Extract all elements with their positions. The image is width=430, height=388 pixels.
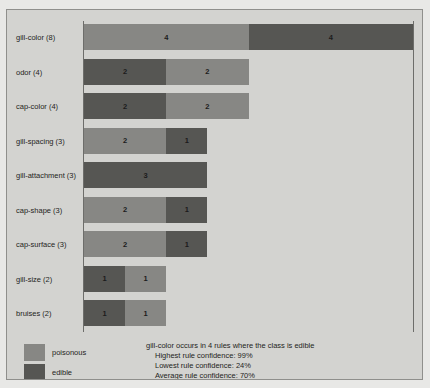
- bar-segment-poisonous[interactable]: 2: [166, 93, 248, 119]
- rule-attribute-chart-panel: gill-color (8)odor (4)cap-color (4)gill-…: [6, 9, 423, 380]
- category-label: cap-shape (3): [16, 206, 82, 215]
- annotation-average-confidence: Average rule confidence: 70%: [155, 371, 411, 380]
- bar-row[interactable]: 44: [84, 24, 413, 50]
- bar-segment-edible[interactable]: 1: [166, 197, 207, 223]
- bar-segment-poisonous[interactable]: 2: [166, 59, 248, 85]
- bar-row[interactable]: 11: [84, 300, 166, 326]
- bar-row[interactable]: 21: [84, 128, 207, 154]
- legend-swatch-poisonous: [24, 344, 45, 361]
- bar-segment-edible[interactable]: 2: [84, 93, 166, 119]
- bar-segment-edible[interactable]: 1: [166, 128, 207, 154]
- legend-swatch-edible: [24, 364, 45, 380]
- category-label: odor (4): [16, 68, 82, 77]
- bar-row[interactable]: 22: [84, 59, 249, 85]
- category-label: gill-size (2): [16, 275, 82, 284]
- category-label: cap-surface (3): [16, 240, 82, 249]
- bar-segment-poisonous[interactable]: 2: [84, 128, 166, 154]
- bar-segment-poisonous[interactable]: 2: [84, 231, 166, 257]
- bar-segment-edible[interactable]: 1: [166, 231, 207, 257]
- bar-row[interactable]: 21: [84, 197, 207, 223]
- legend-label: poisonous: [52, 348, 86, 357]
- category-label: cap-color (4): [16, 102, 82, 111]
- bar-segment-poisonous[interactable]: 1: [125, 300, 166, 326]
- bar-segment-poisonous[interactable]: 4: [84, 24, 249, 50]
- stacked-bars: 44222221321211111: [84, 22, 422, 332]
- legend-item-poisonous[interactable]: poisonous: [24, 344, 134, 361]
- bar-segment-poisonous[interactable]: 1: [125, 266, 166, 292]
- legend-item-edible[interactable]: edible: [24, 364, 134, 380]
- category-label: gill-attachment (3): [16, 171, 82, 180]
- bar-segment-edible[interactable]: 3: [84, 162, 207, 188]
- category-label: gill-color (8): [16, 33, 82, 42]
- bar-segment-edible[interactable]: 4: [249, 24, 414, 50]
- chart-annotation: gill-color occurs in 4 rules where the c…: [146, 341, 411, 380]
- bar-segment-edible[interactable]: 1: [84, 300, 125, 326]
- category-label: gill-spacing (3): [16, 137, 82, 146]
- bar-row[interactable]: 22: [84, 93, 249, 119]
- annotation-headline: gill-color occurs in 4 rules where the c…: [146, 341, 411, 350]
- bar-segment-edible[interactable]: 1: [84, 266, 125, 292]
- bar-segment-poisonous[interactable]: 2: [84, 197, 166, 223]
- bar-row[interactable]: 11: [84, 266, 166, 292]
- bar-segment-edible[interactable]: 2: [84, 59, 166, 85]
- plot-area: gill-color (8)odor (4)cap-color (4)gill-…: [7, 10, 422, 332]
- legend-label: edible: [52, 368, 72, 377]
- annotation-highest-confidence: Highest rule confidence: 99%: [155, 351, 411, 360]
- chart-legend: poisonousedible: [24, 344, 134, 380]
- bar-row[interactable]: 3: [84, 162, 207, 188]
- category-label: bruises (2): [16, 309, 82, 318]
- bar-row[interactable]: 21: [84, 231, 207, 257]
- annotation-lowest-confidence: Lowest rule confidence: 24%: [155, 361, 411, 370]
